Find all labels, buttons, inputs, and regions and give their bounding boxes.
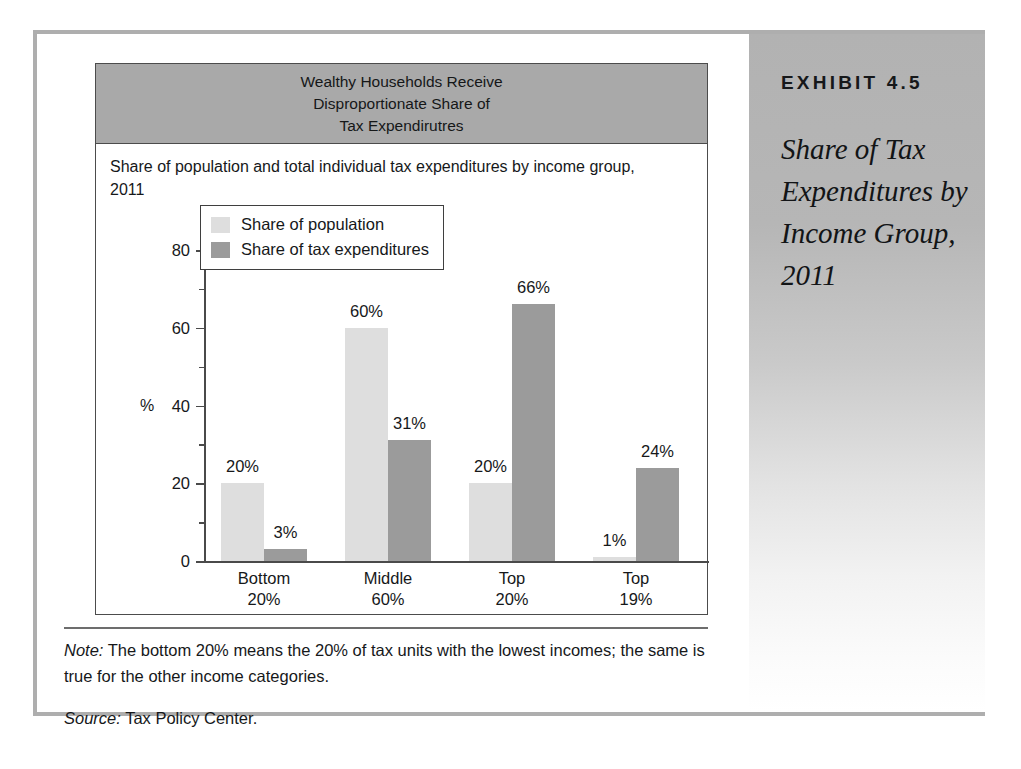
legend-label-expenditures: Share of tax expenditures — [241, 240, 429, 259]
x-axis-category-label: Top20% — [495, 568, 528, 611]
chart-title-line-3: Tax Expendirutres — [300, 115, 502, 137]
x-axis-category-line: Bottom — [238, 568, 290, 589]
x-axis-category-line: 20% — [495, 589, 528, 610]
bar[interactable] — [593, 557, 636, 561]
y-axis-tick-label: 40 — [156, 396, 190, 415]
y-axis-tick-label: 0 — [156, 552, 190, 571]
bar[interactable] — [388, 440, 431, 561]
legend-item[interactable]: Share of population — [211, 212, 429, 237]
y-axis-tick-label: 80 — [156, 241, 190, 260]
bar[interactable] — [469, 483, 512, 561]
y-axis-minor-tick — [199, 289, 205, 291]
note-label: Note: — [64, 641, 103, 659]
exhibit-caption: Share of Tax Expenditures by Income Grou… — [781, 128, 971, 296]
legend-swatch-population — [211, 217, 230, 233]
notes-divider — [64, 627, 708, 629]
chart-title-line-1: Wealthy Households Receive — [300, 71, 502, 93]
x-axis-category-line: 60% — [364, 589, 413, 610]
y-axis-tick — [196, 406, 205, 408]
y-axis-tick — [196, 561, 205, 563]
note-text: Note: The bottom 20% means the 20% of ta… — [64, 638, 712, 689]
bar[interactable] — [221, 483, 264, 561]
chart-card: Wealthy Households Receive Disproportion… — [95, 63, 708, 615]
bar-value-label: 31% — [393, 414, 426, 433]
outer-frame: Wealthy Households Receive Disproportion… — [33, 30, 985, 716]
y-axis-tick-label: 20 — [156, 474, 190, 493]
x-axis-category-label: Middle60% — [364, 568, 413, 611]
y-axis-minor-tick — [199, 367, 205, 369]
x-axis-category-line: 20% — [238, 589, 290, 610]
bar-value-label: 3% — [274, 523, 298, 542]
bar-value-label: 24% — [641, 442, 674, 461]
chart-title-line-2: Disproportionate Share of — [300, 93, 502, 115]
y-axis-tick-label: 60 — [156, 318, 190, 337]
x-axis-category-label: Top19% — [619, 568, 652, 611]
x-axis-category-line: Middle — [364, 568, 413, 589]
y-axis-tick — [196, 483, 205, 485]
exhibit-number: EXHIBIT 4.5 — [781, 72, 971, 94]
y-axis-unit-label: % — [140, 397, 154, 415]
x-axis-category-label: Bottom20% — [238, 568, 290, 611]
legend-item[interactable]: Share of tax expenditures — [211, 237, 429, 262]
source-label: Source: — [64, 709, 121, 727]
note-body: The bottom 20% means the 20% of tax unit… — [64, 641, 705, 685]
y-axis-tick — [196, 328, 205, 330]
x-axis-category-line: 19% — [619, 589, 652, 610]
y-axis-tick-labels: 020406080 — [146, 144, 190, 614]
x-axis-category-line: Top — [495, 568, 528, 589]
bar-value-label: 20% — [226, 457, 259, 476]
bar-value-label: 60% — [350, 302, 383, 321]
bar[interactable] — [345, 328, 388, 561]
exhibit-sidebar: EXHIBIT 4.5 Share of Tax Expenditures by… — [749, 34, 985, 712]
chart-legend: Share of population Share of tax expendi… — [200, 205, 444, 270]
bar-value-label: 20% — [474, 457, 507, 476]
y-axis-minor-tick — [199, 444, 205, 446]
chart-body: Share of population and total individual… — [96, 144, 707, 614]
x-axis-category-line: Top — [619, 568, 652, 589]
bar[interactable] — [636, 468, 679, 561]
exhibit-page: Wealthy Households Receive Disproportion… — [0, 0, 1021, 769]
source-text: Source: Tax Policy Center. — [64, 706, 712, 732]
bar-value-label: 1% — [603, 531, 627, 550]
bar[interactable] — [264, 549, 307, 561]
source-body: Tax Policy Center. — [121, 709, 257, 727]
y-axis-minor-tick — [199, 522, 205, 524]
bar-value-label: 66% — [517, 278, 550, 297]
x-axis-line — [204, 561, 709, 563]
chart-title: Wealthy Households Receive Disproportion… — [300, 71, 502, 137]
chart-title-banner: Wealthy Households Receive Disproportion… — [96, 64, 707, 144]
exhibit-sidebar-content: EXHIBIT 4.5 Share of Tax Expenditures by… — [781, 72, 971, 296]
legend-label-population: Share of population — [241, 215, 384, 234]
legend-swatch-expenditures — [211, 242, 230, 258]
bar[interactable] — [512, 304, 555, 561]
notes-block: Note: The bottom 20% means the 20% of ta… — [64, 638, 712, 732]
